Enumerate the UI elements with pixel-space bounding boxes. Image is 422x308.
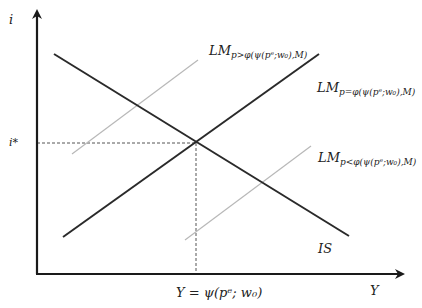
lm-main-curve	[63, 54, 319, 237]
i-star-label: i*	[9, 137, 18, 148]
lm-lower-label: LMp<φ(ψ(pᵉ;w₀),M)	[318, 151, 416, 167]
lm-upper-label-main: LM	[209, 43, 231, 58]
lm-main-label: LMp=φ(ψ(pᵉ;w₀),M)	[317, 81, 415, 97]
x-axis-label: Y	[370, 284, 379, 297]
lm-lower-curve	[185, 146, 311, 240]
y-star-label: Y = ψ(pᵉ; w₀)	[176, 286, 262, 299]
is-label: IS	[318, 242, 332, 255]
lm-main-label-sub: p=φ(ψ(pᵉ;w₀),M)	[339, 87, 415, 97]
is-curve	[54, 54, 349, 236]
lm-main-label-main: LM	[317, 80, 339, 95]
lm-upper-curve	[72, 60, 198, 154]
lm-lower-label-sub: p<φ(ψ(pᵉ;w₀),M)	[340, 157, 416, 167]
lm-upper-label-sub: p>φ(ψ(pᵉ;w₀),M)	[231, 50, 307, 60]
y-axis-label: i	[9, 13, 13, 26]
lm-lower-label-main: LM	[318, 150, 340, 165]
lm-upper-label: LMp>φ(ψ(pᵉ;w₀),M)	[209, 44, 307, 60]
